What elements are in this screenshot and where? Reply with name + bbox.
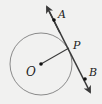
geometry-diagram: A P B O [0,0,102,104]
label-o: O [26,65,36,79]
point-o [39,62,43,66]
point-a [52,18,56,22]
radius-op [41,48,69,64]
label-b: B [88,66,97,79]
label-p: P [72,39,81,52]
diagram-svg: A P B O [0,0,102,104]
point-b [83,77,87,81]
label-a: A [57,8,66,21]
